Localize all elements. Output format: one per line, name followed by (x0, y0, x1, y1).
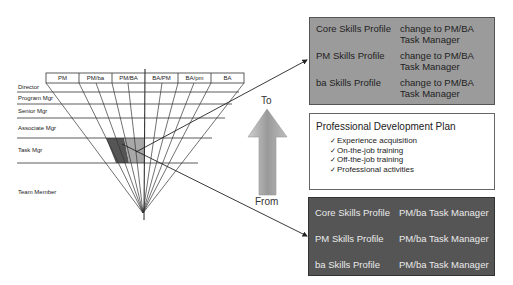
level-team-member: Team Member (18, 189, 56, 195)
checkmark-icon: ✓ (330, 136, 337, 146)
profile-name: Core Skills Profile (315, 207, 399, 218)
profile-name: PM Skills Profile (316, 50, 400, 72)
level-senior-mgr: Senior Mgr (18, 108, 47, 114)
connector-to-current (122, 144, 307, 236)
checkmark-icon: ✓ (330, 165, 337, 175)
list-item: ✓Experience acquisition (330, 136, 417, 146)
list-item: ✓On-the-job training (330, 146, 417, 156)
development-plan-list: ✓Experience acquisition ✓On-the-job trai… (330, 136, 417, 174)
current-row: PM Skills Profile PM/ba Task Manager (315, 233, 490, 244)
profile-name: ba Skills Profile (316, 77, 400, 99)
level-director: Director (18, 84, 39, 90)
level-program-mgr: Program Mgr (18, 95, 53, 101)
target-row: PM Skills Profile change to PM/BATask Ma… (316, 50, 490, 72)
change-line: Task Manager (400, 34, 460, 45)
checkmark-icon: ✓ (330, 146, 337, 156)
level-associate-mgr: Associate Mgr (18, 125, 56, 131)
role-name: PM/ba Task Manager (399, 207, 490, 218)
list-item: ✓Professional activities (330, 165, 417, 175)
profile-name: ba Skills Profile (315, 259, 399, 270)
column-header-pm: PM (46, 73, 79, 83)
role-name: PM/ba Task Manager (399, 259, 490, 270)
list-item: ✓Off-the-job training (330, 155, 417, 165)
current-profile-box: Core Skills Profile PM/ba Task Manager P… (308, 197, 495, 276)
development-plan-title: Professional Development Plan (316, 121, 456, 132)
change-line: change to PM/BA (400, 77, 474, 88)
change-line: change to PM/BA (400, 50, 474, 61)
target-row: Core Skills Profile change to PM/BATask … (316, 23, 490, 45)
change-line: Task Manager (400, 88, 460, 99)
column-header-ba-pm: BA/PM (145, 73, 178, 83)
role-name: PM/ba Task Manager (399, 233, 490, 244)
change-line: Task Manager (400, 61, 460, 72)
current-row: ba Skills Profile PM/ba Task Manager (315, 259, 490, 270)
target-profile-box: Core Skills Profile change to PM/BATask … (309, 17, 495, 105)
column-header-pm-BA: PM/BA (112, 73, 145, 83)
profile-name: Core Skills Profile (316, 23, 400, 45)
up-arrow-icon (248, 109, 287, 195)
column-header-ba-pm-lower: BA/pm (178, 73, 211, 83)
arrow-label-from: From (255, 196, 278, 207)
column-header-ba: BA (211, 73, 244, 83)
level-task-mgr: Task Mgr (18, 147, 42, 153)
profile-name: PM Skills Profile (315, 233, 399, 244)
checkmark-icon: ✓ (330, 155, 337, 165)
column-header-pm-ba: PM/ba (79, 73, 112, 83)
change-line: change to PM/BA (400, 23, 474, 34)
arrow-label-to: To (261, 95, 272, 106)
target-row: ba Skills Profile change to PM/BATask Ma… (316, 77, 490, 99)
current-row: Core Skills Profile PM/ba Task Manager (315, 207, 490, 218)
development-plan-box: Professional Development Plan ✓Experienc… (309, 113, 495, 190)
